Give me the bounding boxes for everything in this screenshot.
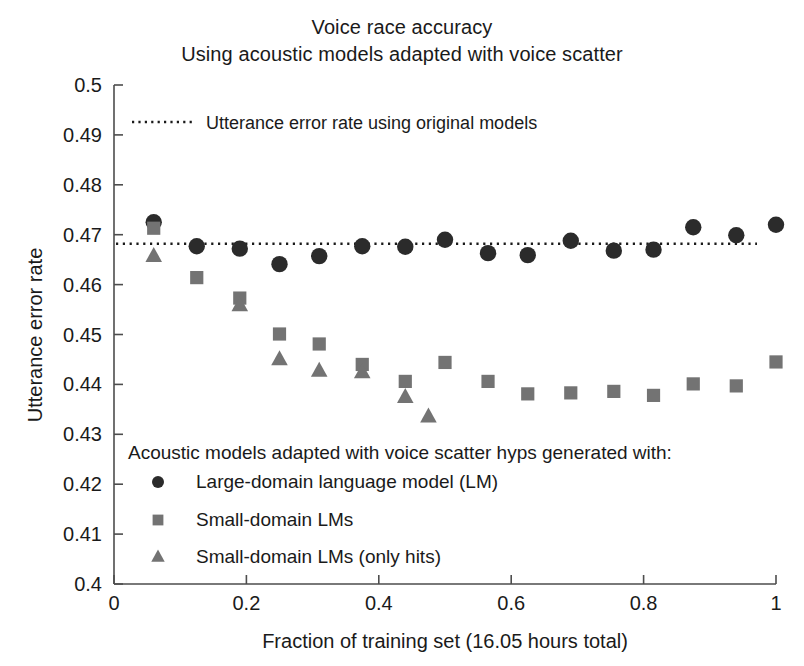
- data-point-triangle: [271, 350, 288, 365]
- data-point-square: [647, 389, 660, 402]
- data-point-square: [153, 515, 164, 526]
- scatter-plot: 0.40.410.420.430.440.450.460.470.480.490…: [0, 0, 804, 666]
- y-tick-label: 0.46: [63, 274, 102, 296]
- data-point-triangle: [151, 550, 164, 562]
- y-tick-label: 0.44: [63, 373, 102, 395]
- data-point-square: [730, 379, 743, 392]
- data-point-square: [607, 385, 620, 398]
- legend-entry-1: Large-domain language model (LM): [152, 471, 498, 492]
- x-axis-title: Fraction of training set (16.05 hours to…: [262, 630, 628, 652]
- data-point-circle: [728, 227, 744, 243]
- data-point-square: [564, 386, 577, 399]
- data-point-square: [147, 222, 160, 235]
- y-tick-label: 0.4: [74, 573, 102, 595]
- data-point-square: [521, 387, 534, 400]
- data-point-circle: [232, 240, 248, 256]
- data-point-triangle: [311, 362, 328, 377]
- data-point-triangle: [397, 388, 414, 403]
- y-tick-label: 0.48: [63, 174, 102, 196]
- legend-entry-label: Small-domain LMs (only hits): [196, 546, 441, 567]
- x-tick-label: 0.2: [232, 592, 260, 614]
- x-tick-label: 0.4: [365, 592, 393, 614]
- data-point-circle: [437, 231, 453, 247]
- series-triangle: [145, 247, 436, 423]
- data-point-circle: [311, 248, 327, 264]
- y-tick-label: 0.43: [63, 423, 102, 445]
- data-point-square: [190, 271, 203, 284]
- data-point-circle: [606, 242, 622, 258]
- data-point-square: [399, 375, 412, 388]
- chart-legend: Acoustic models adapted with voice scatt…: [128, 442, 672, 567]
- y-tick-label: 0.45: [63, 324, 102, 346]
- data-point-circle: [685, 219, 701, 235]
- data-series-group: [145, 214, 784, 423]
- y-tick-label: 0.47: [63, 224, 102, 246]
- legend-entry-label: Small-domain LMs: [196, 509, 353, 530]
- x-tick-label: 0.6: [497, 592, 525, 614]
- legend-heading: Acoustic models adapted with voice scatt…: [128, 442, 672, 463]
- legend-entry-2: Small-domain LMs: [153, 509, 354, 530]
- data-point-circle: [271, 256, 287, 272]
- x-tick-label: 0: [108, 592, 119, 614]
- y-axis-title: Utterance error rate: [24, 248, 46, 423]
- data-point-square: [273, 327, 286, 340]
- legend-entry-label: Large-domain language model (LM): [196, 471, 498, 492]
- y-tick-label: 0.49: [63, 124, 102, 146]
- y-tick-label: 0.41: [63, 523, 102, 545]
- data-point-triangle: [145, 247, 162, 262]
- x-tick-label: 0.8: [630, 592, 658, 614]
- data-point-circle: [152, 476, 164, 488]
- data-point-circle: [768, 217, 784, 233]
- data-point-circle: [397, 238, 413, 254]
- data-point-circle: [189, 238, 205, 254]
- data-point-square: [769, 355, 782, 368]
- y-tick-label: 0.5: [74, 74, 102, 96]
- data-point-square: [687, 377, 700, 390]
- data-point-circle: [563, 232, 579, 248]
- data-point-square: [313, 337, 326, 350]
- data-point-circle: [480, 245, 496, 261]
- data-point-triangle: [420, 408, 437, 423]
- data-point-square: [481, 375, 494, 388]
- data-point-square: [438, 356, 451, 369]
- data-point-circle: [354, 238, 370, 254]
- data-point-circle: [520, 247, 536, 263]
- x-axis-ticks: 00.20.40.60.81: [108, 575, 781, 614]
- legend-entry-3: Small-domain LMs (only hits): [151, 546, 441, 567]
- y-tick-label: 0.42: [63, 473, 102, 495]
- chart-figure: Voice race accuracy Using acoustic model…: [0, 0, 804, 666]
- reference-line-label: Utterance error rate using original mode…: [206, 113, 537, 133]
- data-point-circle: [645, 241, 661, 257]
- reference-line-annotation: Utterance error rate using original mode…: [132, 113, 537, 133]
- x-tick-label: 1: [770, 592, 781, 614]
